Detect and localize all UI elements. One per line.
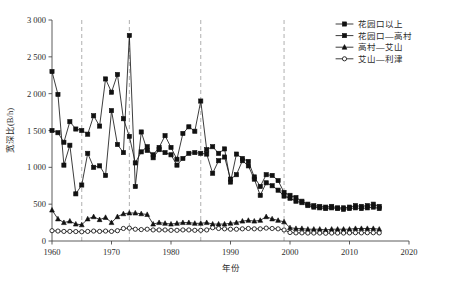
data-point <box>56 229 60 233</box>
x-tick-label: 2010 <box>341 247 358 257</box>
y-tick-label: 3 000 <box>27 15 46 25</box>
data-point <box>62 229 66 233</box>
data-point <box>246 164 250 168</box>
y-tick-label: 1 500 <box>27 126 46 136</box>
data-point <box>139 227 143 231</box>
legend-label-2: 高村—艾山 <box>358 42 403 52</box>
data-point <box>264 181 268 185</box>
data-point <box>181 156 185 160</box>
data-point <box>80 128 84 132</box>
data-point <box>217 151 221 155</box>
data-point <box>187 228 191 232</box>
x-tick-label: 2000 <box>282 247 299 257</box>
data-point <box>68 143 72 147</box>
data-point <box>169 145 173 149</box>
data-point <box>50 69 54 73</box>
data-point <box>181 131 185 135</box>
data-point <box>139 130 143 134</box>
data-point <box>199 99 203 103</box>
data-point <box>252 177 256 181</box>
data-point <box>199 228 203 232</box>
data-point <box>270 226 274 230</box>
data-point <box>193 151 197 155</box>
data-point <box>324 206 328 210</box>
plot-axes <box>49 20 410 245</box>
data-point <box>121 151 125 155</box>
data-point <box>353 206 357 210</box>
data-point <box>193 228 197 232</box>
data-point <box>312 231 316 235</box>
data-point <box>312 205 316 209</box>
data-point <box>115 229 119 233</box>
data-point <box>115 72 119 76</box>
data-point <box>163 228 167 232</box>
data-point <box>175 157 179 161</box>
series-0 <box>50 33 381 210</box>
data-point <box>145 227 149 231</box>
data-point <box>98 229 102 233</box>
data-point <box>163 134 167 138</box>
x-tick-label: 1980 <box>163 247 180 257</box>
data-point <box>86 132 90 136</box>
data-point <box>205 148 209 152</box>
legend: 花园口以上花园口—高村高村—艾山艾山—利津 <box>336 19 412 64</box>
data-point <box>318 231 322 235</box>
data-point <box>175 228 179 232</box>
data-point <box>109 90 113 94</box>
data-point <box>246 159 250 163</box>
data-point <box>371 231 375 235</box>
data-point <box>211 145 215 149</box>
data-point <box>56 92 60 96</box>
data-point <box>133 161 137 165</box>
data-point <box>91 214 96 219</box>
data-point <box>222 147 226 151</box>
data-point <box>347 206 351 210</box>
data-point <box>228 227 232 231</box>
x-tick-label: 1970 <box>103 247 120 257</box>
data-point <box>246 218 251 223</box>
data-point <box>353 231 357 235</box>
data-point <box>74 192 78 196</box>
data-point <box>163 151 167 155</box>
data-point <box>50 207 55 212</box>
data-point <box>68 229 72 233</box>
data-point <box>193 129 197 133</box>
data-point <box>169 153 173 157</box>
data-point <box>74 229 78 233</box>
data-point <box>67 219 72 224</box>
data-point <box>246 226 250 230</box>
data-point <box>204 220 209 225</box>
data-point <box>157 148 161 152</box>
data-point <box>62 163 66 167</box>
data-point <box>234 152 238 156</box>
data-point <box>330 231 334 235</box>
data-point <box>217 226 221 230</box>
data-point <box>324 231 328 235</box>
data-point <box>80 183 84 187</box>
data-point <box>341 231 345 235</box>
data-point <box>103 173 107 177</box>
data-point <box>187 125 191 129</box>
x-tick-labels: 1960197019801990200020102020 <box>44 247 418 257</box>
data-point <box>377 206 381 210</box>
y-tick-labels: 05001 0001 5002 0002 5003 000 <box>27 15 46 246</box>
data-point <box>359 231 363 235</box>
data-point <box>175 163 179 167</box>
data-point <box>73 221 78 226</box>
data-point <box>258 218 263 223</box>
data-point <box>181 228 185 232</box>
legend-marker-0 <box>342 22 346 26</box>
data-point <box>217 159 221 163</box>
y-tick-label: 500 <box>33 199 46 209</box>
data-point <box>211 226 215 230</box>
data-point <box>222 155 226 159</box>
data-point <box>98 164 102 168</box>
series-1 <box>50 72 381 211</box>
data-point <box>228 177 232 181</box>
y-tick-label: 1 000 <box>27 162 46 172</box>
data-point <box>50 229 54 233</box>
y-tick-label: 2 500 <box>27 52 46 62</box>
data-point <box>205 152 209 156</box>
data-point <box>240 227 244 231</box>
series-line-1 <box>52 75 379 210</box>
